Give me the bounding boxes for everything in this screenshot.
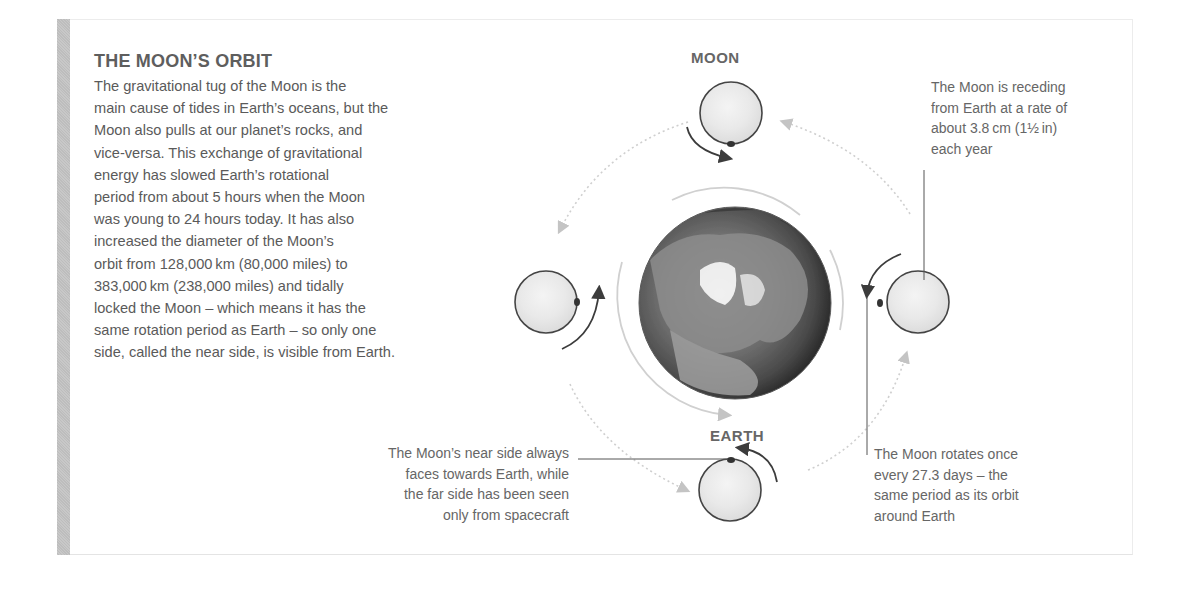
near-side-marker	[574, 298, 580, 306]
callout-rotates: The Moon rotates once every 27.3 days – …	[874, 444, 1019, 526]
callout-line: same period as its orbit	[874, 485, 1019, 506]
callout-line: only from spacecraft	[330, 505, 569, 526]
callout-line: faces towards Earth, while	[330, 464, 569, 485]
moon-label: MOON	[691, 49, 740, 66]
callout-line: The Moon rotates once	[874, 444, 1019, 465]
earth-globe	[639, 200, 840, 399]
callout-receding: The Moon is receding from Earth at a rat…	[931, 77, 1067, 159]
callout-line: around Earth	[874, 506, 1019, 527]
near-side-marker	[727, 141, 735, 147]
moon-right	[867, 254, 949, 333]
callout-line: every 27.3 days – the	[874, 465, 1019, 486]
moon-left	[515, 271, 599, 349]
callout-line: the far side has been seen	[330, 484, 569, 505]
near-side-marker	[727, 457, 735, 463]
callout-line: each year	[931, 139, 1067, 160]
callout-near-side: The Moon’s near side always faces toward…	[330, 443, 569, 525]
earth-label: EARTH	[710, 427, 764, 444]
callout-line: The Moon’s near side always	[330, 443, 569, 464]
near-side-marker	[877, 299, 883, 307]
callout-line: about 3.8 cm (1½ in)	[931, 118, 1067, 139]
callout-line: from Earth at a rate of	[931, 98, 1067, 119]
moon-top	[687, 82, 762, 158]
callout-line: The Moon is receding	[931, 77, 1067, 98]
